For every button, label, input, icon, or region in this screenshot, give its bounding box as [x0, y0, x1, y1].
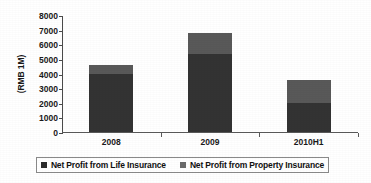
legend-swatch-life-insurance — [41, 162, 47, 168]
y-axis-tick-label: 8000 — [39, 12, 58, 21]
x-axis-line — [62, 132, 358, 133]
x-axis-category-labels: 200820092010H1 — [62, 137, 358, 151]
y-axis-tick-mark — [59, 16, 63, 17]
legend-item-label: Net Profit from Life Insurance — [51, 160, 166, 170]
y-axis-title-text: (RMB 1M) — [16, 55, 26, 93]
y-axis-tick-mark — [59, 45, 63, 46]
y-axis-tick-label: 0 — [53, 129, 58, 138]
bar-segment-life-insurance[interactable] — [89, 74, 133, 132]
chart-legend: Net Profit from Life InsuranceNet Profit… — [36, 157, 329, 173]
bar-segment-life-insurance[interactable] — [287, 103, 331, 132]
bar-stack — [287, 80, 331, 132]
legend-swatch-property-insurance — [180, 162, 186, 168]
y-axis-tick-mark — [59, 60, 63, 61]
y-axis-tick-mark — [59, 104, 63, 105]
y-axis-tick-label: 5000 — [39, 56, 58, 65]
y-axis-title: (RMB 1M) — [14, 14, 28, 134]
bar-group[interactable] — [188, 33, 232, 132]
y-axis-tick-label: 3000 — [39, 85, 58, 94]
bar-segment-property-insurance[interactable] — [287, 80, 331, 103]
y-axis-tick-mark — [59, 118, 63, 119]
x-axis-category-label: 2008 — [102, 137, 121, 147]
bar-group[interactable] — [287, 80, 331, 132]
x-axis-tick-mark — [358, 133, 359, 137]
y-axis-tick-mark — [59, 89, 63, 90]
legend-item[interactable]: Net Profit from Life Insurance — [41, 160, 166, 170]
y-axis-tick-mark — [59, 75, 63, 76]
bar-stack — [89, 65, 133, 132]
bar-segment-life-insurance[interactable] — [188, 54, 232, 132]
y-axis-tick-label: 1000 — [39, 114, 58, 123]
stacked-bar-chart: (RMB 1M) 8000700060005000400030002000100… — [0, 0, 371, 183]
legend-item-label: Net Profit from Property Insurance — [190, 160, 324, 170]
plot-area: 800070006000500040003000200010000 — [62, 16, 358, 133]
x-axis-category-label: 2009 — [201, 137, 220, 147]
bar-segment-property-insurance[interactable] — [188, 33, 232, 53]
y-axis-tick-mark — [59, 133, 63, 134]
bar-group[interactable] — [89, 65, 133, 132]
y-axis-tick-label: 6000 — [39, 41, 58, 50]
legend-item[interactable]: Net Profit from Property Insurance — [180, 160, 324, 170]
y-axis-tick-label: 2000 — [39, 100, 58, 109]
bar-stack — [188, 33, 232, 132]
bar-segment-property-insurance[interactable] — [89, 65, 133, 74]
x-axis-category-label: 2010H1 — [294, 137, 324, 147]
y-axis-tick-label: 7000 — [39, 26, 58, 35]
y-axis-tick-mark — [59, 31, 63, 32]
y-axis-tick-label: 4000 — [39, 70, 58, 79]
